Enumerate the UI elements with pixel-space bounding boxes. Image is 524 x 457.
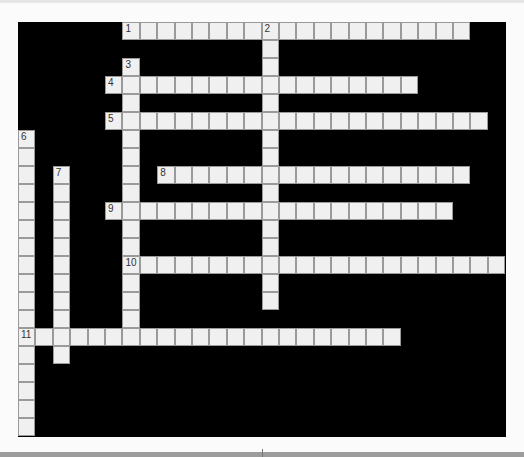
- grid-cell[interactable]: [122, 274, 139, 292]
- grid-cell[interactable]: [331, 328, 348, 346]
- grid-cell[interactable]: [53, 346, 70, 364]
- grid-cell[interactable]: [366, 22, 383, 40]
- grid-cell[interactable]: [122, 112, 139, 130]
- grid-cell[interactable]: [18, 418, 35, 436]
- grid-cell[interactable]: 11: [18, 328, 35, 346]
- grid-cell[interactable]: [262, 220, 279, 238]
- grid-cell[interactable]: [262, 94, 279, 112]
- grid-cell[interactable]: [122, 310, 139, 328]
- grid-cell[interactable]: [401, 256, 418, 274]
- grid-cell[interactable]: 7: [53, 166, 70, 184]
- grid-cell[interactable]: [262, 148, 279, 166]
- grid-cell[interactable]: [383, 22, 400, 40]
- grid-cell[interactable]: [296, 22, 313, 40]
- grid-cell[interactable]: [262, 292, 279, 310]
- grid-cell[interactable]: [279, 22, 296, 40]
- grid-cell[interactable]: [227, 76, 244, 94]
- grid-cell[interactable]: [192, 202, 209, 220]
- grid-cell[interactable]: [279, 202, 296, 220]
- grid-cell[interactable]: [18, 310, 35, 328]
- grid-cell[interactable]: [157, 76, 174, 94]
- grid-cell[interactable]: [262, 58, 279, 76]
- grid-cell[interactable]: [157, 256, 174, 274]
- grid-cell[interactable]: [262, 328, 279, 346]
- grid-cell[interactable]: 4: [105, 76, 122, 94]
- grid-cell[interactable]: [244, 76, 261, 94]
- grid-cell[interactable]: [366, 202, 383, 220]
- grid-cell[interactable]: [296, 256, 313, 274]
- grid-cell[interactable]: [383, 76, 400, 94]
- grid-cell[interactable]: [18, 400, 35, 418]
- grid-cell[interactable]: 3: [122, 58, 139, 76]
- grid-cell[interactable]: [244, 22, 261, 40]
- grid-cell[interactable]: [279, 112, 296, 130]
- grid-cell[interactable]: [122, 94, 139, 112]
- grid-cell[interactable]: [331, 166, 348, 184]
- grid-cell[interactable]: [53, 202, 70, 220]
- grid-cell[interactable]: 1: [122, 22, 139, 40]
- grid-cell[interactable]: [331, 112, 348, 130]
- grid-cell[interactable]: [88, 328, 105, 346]
- grid-cell[interactable]: [349, 112, 366, 130]
- grid-cell[interactable]: [122, 220, 139, 238]
- grid-cell[interactable]: [209, 76, 226, 94]
- grid-cell[interactable]: [244, 202, 261, 220]
- grid-cell[interactable]: [140, 112, 157, 130]
- grid-cell[interactable]: [296, 328, 313, 346]
- grid-cell[interactable]: [488, 256, 505, 274]
- grid-cell[interactable]: [418, 22, 435, 40]
- grid-cell[interactable]: [436, 256, 453, 274]
- grid-cell[interactable]: [279, 76, 296, 94]
- grid-cell[interactable]: [122, 202, 139, 220]
- grid-cell[interactable]: [18, 220, 35, 238]
- grid-cell[interactable]: [192, 166, 209, 184]
- grid-cell[interactable]: [175, 76, 192, 94]
- grid-cell[interactable]: [383, 202, 400, 220]
- grid-cell[interactable]: [383, 328, 400, 346]
- grid-cell[interactable]: [383, 112, 400, 130]
- grid-cell[interactable]: [383, 256, 400, 274]
- grid-cell[interactable]: [244, 256, 261, 274]
- grid-cell[interactable]: [418, 256, 435, 274]
- grid-cell[interactable]: [296, 202, 313, 220]
- grid-cell[interactable]: [331, 76, 348, 94]
- grid-cell[interactable]: [296, 166, 313, 184]
- grid-cell[interactable]: [262, 112, 279, 130]
- grid-cell[interactable]: [401, 76, 418, 94]
- grid-cell[interactable]: [140, 22, 157, 40]
- grid-cell[interactable]: [105, 328, 122, 346]
- grid-cell[interactable]: 10: [122, 256, 139, 274]
- grid-cell[interactable]: [436, 166, 453, 184]
- grid-cell[interactable]: [53, 274, 70, 292]
- grid-cell[interactable]: [262, 76, 279, 94]
- grid-cell[interactable]: [209, 112, 226, 130]
- grid-cell[interactable]: [227, 328, 244, 346]
- grid-cell[interactable]: [175, 22, 192, 40]
- grid-cell[interactable]: 6: [18, 130, 35, 148]
- grid-cell[interactable]: [209, 256, 226, 274]
- grid-cell[interactable]: [262, 238, 279, 256]
- grid-cell[interactable]: [349, 202, 366, 220]
- grid-cell[interactable]: [122, 166, 139, 184]
- grid-cell[interactable]: [53, 220, 70, 238]
- grid-cell[interactable]: [279, 328, 296, 346]
- grid-cell[interactable]: [35, 328, 52, 346]
- grid-cell[interactable]: [175, 202, 192, 220]
- grid-cell[interactable]: [314, 22, 331, 40]
- grid-cell[interactable]: 2: [262, 22, 279, 40]
- grid-cell[interactable]: [453, 112, 470, 130]
- grid-cell[interactable]: [349, 256, 366, 274]
- grid-cell[interactable]: [18, 166, 35, 184]
- grid-cell[interactable]: [279, 166, 296, 184]
- grid-cell[interactable]: [366, 166, 383, 184]
- grid-cell[interactable]: [18, 202, 35, 220]
- grid-cell[interactable]: 9: [105, 202, 122, 220]
- grid-cell[interactable]: [314, 328, 331, 346]
- grid-cell[interactable]: [192, 112, 209, 130]
- grid-cell[interactable]: [53, 292, 70, 310]
- grid-cell[interactable]: [349, 76, 366, 94]
- grid-cell[interactable]: [453, 22, 470, 40]
- grid-cell[interactable]: [453, 166, 470, 184]
- grid-cell[interactable]: [366, 112, 383, 130]
- grid-cell[interactable]: [18, 364, 35, 382]
